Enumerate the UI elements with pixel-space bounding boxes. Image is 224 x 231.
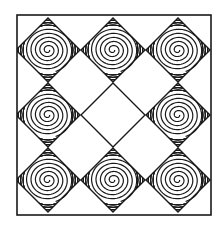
spiral-diamond [16,18,80,82]
spiral-motif [27,159,72,201]
spiral-diamond [81,18,145,82]
spiral-motif [92,159,137,201]
spiral-diamond [16,83,80,147]
spiral-diamond [146,83,210,147]
spiral-diamond [16,148,80,212]
spiral-motif [157,159,202,201]
spiral-tile-artwork [0,0,224,231]
spiral-motif [27,29,72,71]
spiral-motif [157,94,202,136]
spiral-diamond [146,18,210,82]
spiral-diamond [146,148,210,212]
spiral-motif [157,29,202,71]
spiral-diamond [81,148,145,212]
spiral-motif [27,94,72,136]
empty-diamond [81,83,145,147]
diamond-grid [16,18,210,212]
spiral-motif [92,29,137,71]
